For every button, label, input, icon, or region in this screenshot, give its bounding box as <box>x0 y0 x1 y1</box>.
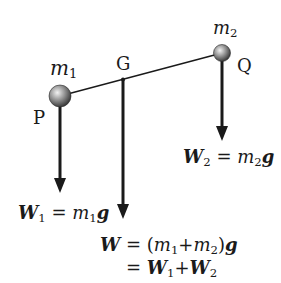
w2-equation: W2 = m2g <box>183 148 274 169</box>
point-label-q: Q <box>237 57 252 75</box>
w-total-equation-line2: = W1+W2 <box>126 259 217 280</box>
w1-arrow-icon <box>54 104 66 193</box>
w-total-arrow-icon <box>117 80 129 219</box>
point-label-p: P <box>33 109 45 127</box>
mass-label-m2: m2 <box>213 19 238 40</box>
mass-p-ball <box>49 85 71 107</box>
rod-line <box>60 53 222 96</box>
w-total-equation-line1: W = (m1+m2)g <box>100 236 238 257</box>
mass-q-ball <box>214 45 231 62</box>
mass-label-m1: m1 <box>50 58 77 80</box>
w2-arrow-icon <box>216 58 228 141</box>
point-label-g: G <box>116 55 130 73</box>
w1-equation: W1 = m1g <box>18 204 109 225</box>
